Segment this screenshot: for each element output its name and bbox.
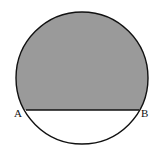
point-label-b: B	[141, 107, 148, 119]
circle-diagram: A B	[0, 0, 158, 147]
point-label-a: A	[14, 107, 22, 119]
